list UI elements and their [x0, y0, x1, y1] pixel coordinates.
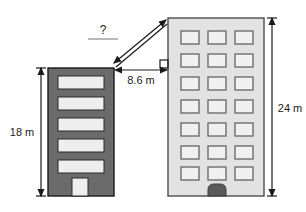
left-building [48, 68, 114, 196]
right-building-window [235, 77, 253, 90]
right-building-window [181, 77, 199, 90]
right-building-window [235, 146, 253, 159]
horizontal-distance-label: 8.6 m [127, 74, 155, 86]
right-building-door [208, 184, 226, 196]
building-distance-diagram: ? 8.6 m 18 m 24 m [0, 0, 306, 212]
left-building-window [58, 118, 104, 131]
right-building-window [181, 123, 199, 136]
right-building-window [235, 31, 253, 44]
figure-container: ? 8.6 m 18 m 24 m [0, 0, 306, 212]
right-building-window [181, 31, 199, 44]
right-building-window [208, 167, 226, 180]
right-building-window [208, 31, 226, 44]
right-building-window [235, 123, 253, 136]
right-building-window [208, 54, 226, 67]
left-building-window [58, 139, 104, 152]
right-building-window [181, 146, 199, 159]
right-building-window [181, 54, 199, 67]
right-building-window [181, 100, 199, 113]
right-building [168, 18, 264, 196]
right-building-window [208, 146, 226, 159]
right-building-window [181, 167, 199, 180]
right-building-window [208, 77, 226, 90]
unknown-distance-label: ? [100, 23, 107, 37]
left-building-window [58, 160, 104, 173]
right-building-window [235, 54, 253, 67]
right-building-window [235, 100, 253, 113]
left-building-door [72, 178, 88, 196]
right-height-label: 24 m [278, 102, 302, 114]
left-height-label: 18 m [10, 126, 34, 138]
left-building-window [58, 76, 104, 89]
right-building-window [208, 123, 226, 136]
left-building-window [58, 97, 104, 110]
right-building-window [235, 167, 253, 180]
right-building-window [208, 100, 226, 113]
